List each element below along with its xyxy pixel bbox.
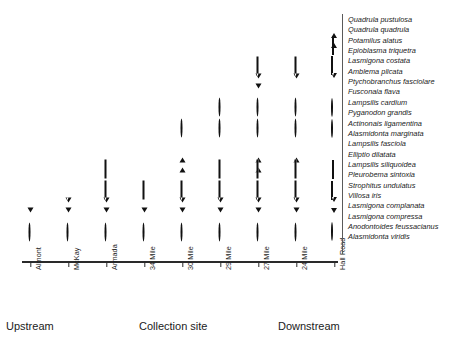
filled-circle-icon: [142, 233, 144, 250]
data-point: [28, 213, 35, 220]
data-point: [180, 120, 187, 127]
data-point: [218, 223, 225, 230]
data-point: [104, 213, 111, 220]
data-point: [28, 223, 35, 230]
filled-square-icon: [142, 192, 144, 209]
data-point: [142, 171, 149, 178]
axis-tick-label-34-mile: 34 Mile: [148, 246, 157, 270]
data-point: [294, 78, 301, 85]
data-point: [294, 182, 301, 189]
axis-tick: [258, 262, 259, 267]
data-point: [294, 109, 301, 116]
data-point: [142, 223, 149, 230]
data-point: [104, 223, 111, 230]
data-point: [294, 99, 301, 106]
filled-triangle-down-icon: [331, 213, 338, 220]
data-point: [142, 213, 149, 220]
axis-tick: [182, 262, 183, 267]
open-diamond-icon: [331, 37, 338, 44]
filled-diamond-icon: [331, 171, 338, 178]
filled-circle-icon: [331, 109, 338, 116]
filled-triangle-up-icon: [180, 151, 186, 168]
none-icon: [331, 233, 338, 240]
open-triangle-down-icon: [294, 78, 300, 95]
data-point: [256, 151, 263, 158]
open-circle-icon: [218, 120, 222, 137]
open-triangle-down-icon: [331, 78, 338, 85]
open-circle-icon: [294, 120, 298, 137]
filled-circle-icon: [28, 233, 30, 250]
none-icon: [331, 151, 338, 158]
filled-circle-icon: [180, 233, 182, 250]
open-circle-icon: [331, 99, 338, 106]
axis-tick-label-29-mile: 29 Mile: [224, 246, 233, 270]
data-point: [66, 213, 73, 220]
open-circle-icon: [256, 120, 260, 137]
data-point: [104, 182, 111, 189]
none-icon: [331, 140, 338, 147]
data-point: [218, 120, 225, 127]
data-point: [180, 213, 187, 220]
axis-tick: [106, 262, 107, 267]
data-point: [218, 99, 225, 106]
data-point: [256, 88, 263, 95]
data-point: [104, 233, 111, 240]
data-point: [294, 57, 301, 64]
open-diamond-icon: [331, 161, 338, 168]
open-square-icon: [331, 182, 338, 189]
legend-label: Alasmidonta viridis: [342, 232, 410, 241]
open-circle-icon: [294, 223, 298, 240]
data-point: [218, 213, 225, 220]
data-point: [142, 233, 149, 240]
none-icon: [331, 88, 338, 95]
data-point: [256, 99, 263, 106]
legend: Quadrula pustulosaQuadrula quadrulaPotam…: [326, 10, 462, 260]
data-point: [142, 192, 149, 199]
axis-tick-label-almont: Almont: [34, 247, 43, 270]
data-point: [256, 57, 263, 64]
data-point: [256, 120, 263, 127]
data-point: [294, 161, 301, 168]
axis-tick-label-27-mile: 27 Mile: [262, 246, 271, 270]
data-point: [104, 161, 111, 168]
open-triangle-up-icon: [331, 16, 338, 23]
data-point: [256, 140, 263, 147]
data-point: [294, 140, 301, 147]
data-point: [256, 109, 263, 116]
open-square-icon: [331, 57, 338, 64]
open-circle-icon: [331, 223, 338, 230]
axis-tick: [220, 262, 221, 267]
axis-tick-label-30-mile: 30 Mile: [186, 246, 195, 270]
open-diamond-icon: [218, 161, 223, 178]
data-point: [294, 223, 301, 230]
upstream-label: Upstream: [6, 320, 54, 332]
filled-circle-icon: [104, 233, 106, 250]
axis-tick: [144, 262, 145, 267]
data-point: [256, 171, 263, 178]
filled-triangle-up-icon: [331, 26, 338, 33]
data-point: [180, 223, 187, 230]
data-point: [218, 161, 225, 168]
data-point: [180, 171, 187, 178]
axis-tick: [296, 262, 297, 267]
legend-symbol: [326, 230, 342, 243]
downstream-label: Downstream: [278, 320, 340, 332]
x-axis-title: Collection site: [139, 320, 207, 332]
data-point: [180, 140, 187, 147]
data-point: [256, 161, 263, 168]
data-point: [66, 223, 73, 230]
filled-diamond-icon: [331, 47, 338, 54]
data-point: [180, 151, 187, 158]
data-point: [28, 233, 35, 240]
data-point: [294, 171, 301, 178]
axis-tick-label-mckay: McKay: [72, 248, 81, 270]
open-circle-icon: [218, 223, 222, 240]
filled-circle-icon: [331, 130, 338, 137]
data-point: [294, 120, 301, 127]
data-point: [294, 213, 301, 220]
axis-tick: [334, 262, 335, 267]
legend-item: Alasmidonta viridis: [326, 230, 462, 243]
axis-tick: [30, 262, 31, 267]
data-point: [256, 182, 263, 189]
axis-tick: [68, 262, 69, 267]
